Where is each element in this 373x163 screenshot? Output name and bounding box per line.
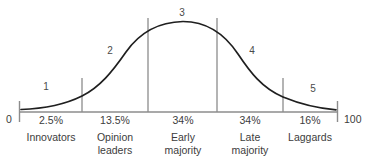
segment-number-2: 2: [100, 45, 120, 56]
segment-number-3: 3: [172, 7, 192, 18]
category-name-innovators: Innovators: [14, 131, 88, 144]
category-name-line: majority: [213, 144, 287, 157]
category-name-opinion-leaders: Opinion leaders: [78, 131, 152, 157]
category-block-innovators: 2.5% Innovators: [14, 114, 88, 144]
category-block-early-majority: 34% Early majority: [146, 114, 220, 157]
category-name-laggards: Laggards: [273, 131, 347, 144]
category-percent-laggards: 16%: [273, 114, 347, 127]
category-name-line: Innovators: [14, 131, 88, 144]
category-name-line: Laggards: [273, 131, 347, 144]
axis-label-zero: 0: [6, 114, 12, 125]
category-percent-innovators: 2.5%: [14, 114, 88, 127]
category-name-line: leaders: [78, 144, 152, 157]
category-block-opinion-leaders: 13.5% Opinion leaders: [78, 114, 152, 157]
category-percent-early-majority: 34%: [146, 114, 220, 127]
category-name-line: Early: [146, 131, 220, 144]
category-block-laggards: 16% Laggards: [273, 114, 347, 144]
category-name-early-majority: Early majority: [146, 131, 220, 157]
bell-curve-path: [21, 22, 336, 110]
segment-number-5: 5: [303, 83, 323, 94]
category-name-line: majority: [146, 144, 220, 157]
segment-number-1: 1: [36, 81, 56, 92]
category-name-line: Opinion: [78, 131, 152, 144]
segment-number-4: 4: [242, 45, 262, 56]
category-percent-opinion-leaders: 13.5%: [78, 114, 152, 127]
diffusion-of-innovation-chart: 1 2 3 4 5 0 100 2.5% Innovators 13.5% Op…: [0, 0, 373, 163]
